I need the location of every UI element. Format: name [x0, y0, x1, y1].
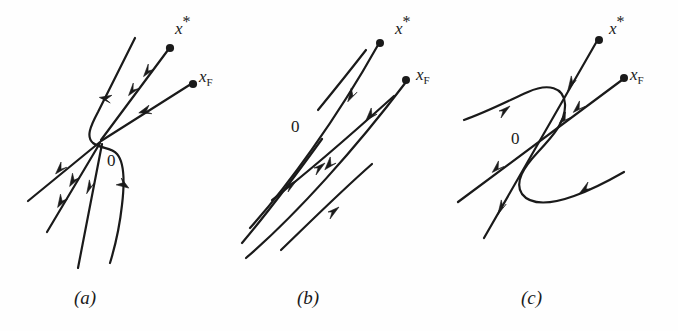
endpoint-dot-x-f — [189, 80, 197, 88]
origin-label-a: 0 — [107, 152, 116, 169]
trajectory-b-shallow-down — [272, 96, 394, 200]
endpoint-dot-b-x-f — [402, 76, 410, 84]
arrowhead-b-6 — [328, 207, 339, 219]
label-b-x-f-base: x — [416, 65, 424, 84]
panel-caption-a: (a) — [74, 288, 96, 307]
arrowhead-c-4 — [573, 101, 586, 113]
trajectory-in-steep — [78, 144, 102, 268]
endpoint-dot-b-x-star — [376, 39, 384, 47]
label-x-f-sub: F — [207, 76, 213, 88]
endpoint-dot-c-x-f — [620, 74, 628, 82]
label-c-x-f: xF — [630, 66, 644, 83]
label-b-x-f-sub: F — [424, 74, 430, 86]
trajectory-to-x-star — [101, 50, 168, 140]
label-c-x-f-base: x — [630, 65, 638, 84]
label-b-x-f: xF — [416, 66, 430, 83]
label-b-x-star-sup: * — [403, 13, 411, 30]
panel-c: x* xF 0 (c) — [452, 0, 678, 331]
separatrix-s-curve — [464, 87, 624, 202]
endpoint-dot-x-star — [166, 44, 174, 52]
trajectory-in-shallow — [28, 142, 100, 201]
trajectory-c-to-x-f — [458, 80, 622, 202]
label-b-x-star-base: x — [395, 19, 403, 38]
endpoint-dot-c-x-star — [595, 36, 603, 44]
label-x-f-base: x — [199, 67, 207, 86]
arrowhead-in-shallow — [54, 161, 67, 174]
trajectory-b-shallow-to-x-f — [246, 82, 406, 258]
figure-canvas: x* xF 0 (a) — [0, 0, 678, 331]
label-b-x-star: x* — [395, 20, 411, 37]
panel-caption-b: (b) — [297, 288, 319, 307]
label-c-x-star-sup: * — [617, 13, 625, 30]
panel-c-drawing — [452, 0, 678, 331]
arrowhead-c-hook-upper — [499, 106, 510, 118]
panel-caption-c: (c) — [521, 288, 542, 307]
label-x-f: xF — [199, 68, 213, 85]
label-x-star-sup: * — [183, 13, 191, 30]
trajectory-b-steep-to-x-star — [250, 45, 378, 228]
label-c-x-f-sub: F — [638, 74, 644, 86]
arrowhead-to-x-star-1 — [127, 83, 139, 96]
arrowhead-hook-out — [115, 177, 128, 190]
panel-a: x* xF 0 (a) — [0, 0, 226, 331]
label-x-star: x* — [175, 20, 191, 37]
label-c-x-star-base: x — [609, 19, 617, 38]
origin-label-b: 0 — [291, 118, 300, 135]
panel-b: x* xF 0 (b) — [226, 0, 452, 331]
arrowhead-c-3 — [492, 161, 505, 173]
trajectory-in-medium — [47, 143, 100, 232]
panel-b-drawing — [226, 0, 452, 331]
origin-label-c: 0 — [511, 130, 520, 147]
label-x-star-base: x — [175, 19, 183, 38]
label-c-x-star: x* — [609, 20, 625, 37]
